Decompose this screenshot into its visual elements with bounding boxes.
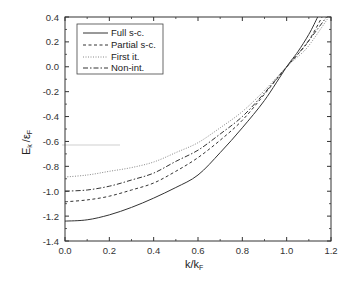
- x-axis-label: k/kF: [185, 258, 203, 271]
- y-tick-label: -1.0: [43, 186, 59, 197]
- x-tick-label: 0.2: [103, 245, 116, 256]
- y-tick-label: 0.0: [46, 61, 59, 72]
- x-tick-label: 1.0: [280, 245, 293, 256]
- x-tick-label: 0.6: [191, 245, 204, 256]
- legend-label-nonint: Non-int.: [111, 62, 144, 73]
- x-tick-label: 0.0: [58, 245, 71, 256]
- x-tick-label: 0.8: [236, 245, 249, 256]
- y-tick-labels: 0.40.20.0-0.2-0.4-0.6-0.8-1.0-1.2-1.4: [43, 12, 59, 247]
- x-tick-label: 1.2: [324, 245, 337, 256]
- x-tick-labels: 0.00.20.40.60.81.01.2: [58, 245, 337, 256]
- x-tick-label: 0.4: [147, 245, 160, 256]
- legend-label-first: First it.: [111, 51, 140, 62]
- legend-label-full: Full s-c.: [111, 27, 144, 38]
- y-tick-label: 0.4: [46, 12, 59, 23]
- y-tick-label: -1.4: [43, 236, 59, 247]
- y-tick-label: -0.4: [43, 111, 59, 122]
- y-tick-label: -0.8: [43, 161, 59, 172]
- y-tick-label: -0.2: [43, 86, 59, 97]
- y-tick-label: 0.2: [46, 36, 59, 47]
- y-axis-label: Ek/εF: [20, 130, 33, 155]
- y-tick-label: -1.2: [43, 211, 59, 222]
- chart: 0.40.20.0-0.2-0.4-0.6-0.8-1.0-1.2-1.4 0.…: [0, 0, 355, 283]
- y-tick-label: -0.6: [43, 136, 59, 147]
- legend: Full s-c. Partial s-c. First it. Non-int…: [77, 24, 163, 74]
- legend-label-partial: Partial s-c.: [111, 39, 156, 50]
